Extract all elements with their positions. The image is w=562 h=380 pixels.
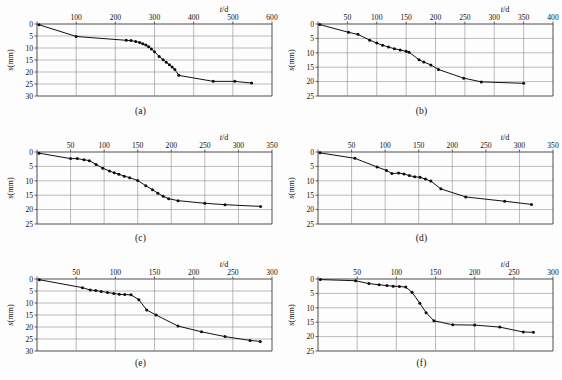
chart-panel-a: 100200300400500600051015202530t/ds(mm) (… (0, 0, 281, 128)
y-tick-label: 10 (306, 49, 314, 58)
data-point (532, 331, 535, 334)
data-point (81, 286, 84, 289)
y-tick-label: 10 (25, 177, 33, 186)
data-point (144, 184, 147, 187)
data-point (250, 82, 253, 85)
chart-b-plot: 501001502002503003504000510152025t/ds(mm… (287, 5, 559, 101)
data-point (503, 200, 506, 203)
data-point (177, 199, 180, 202)
data-point (145, 308, 148, 311)
data-point (158, 55, 161, 58)
x-tick-label: 400 (188, 13, 200, 22)
data-point (390, 172, 393, 175)
x-tick-label: 150 (132, 141, 144, 150)
data-point (393, 47, 396, 50)
data-point (418, 58, 421, 61)
y-axis-title: s(mm) (287, 304, 296, 326)
data-series-line (320, 280, 533, 333)
data-point (392, 285, 395, 288)
y-tick-label: 15 (25, 191, 33, 200)
caption-c: (c) (0, 233, 281, 243)
data-point (203, 202, 206, 205)
data-point (368, 39, 371, 42)
data-point (173, 68, 176, 71)
data-point (38, 278, 41, 281)
y-tick-label: 15 (306, 191, 314, 200)
data-point (128, 176, 131, 179)
data-point (130, 39, 133, 42)
y-tick-label: 5 (29, 32, 33, 41)
data-point (153, 50, 156, 53)
y-tick-label: 0 (310, 275, 314, 284)
data-point (83, 158, 86, 161)
data-point (89, 289, 92, 292)
data-point (123, 293, 126, 296)
x-tick-label: 200 (430, 13, 442, 22)
data-point (118, 293, 121, 296)
data-point (319, 278, 322, 281)
data-point (147, 45, 150, 48)
caption-f: (f) (281, 358, 562, 368)
y-tick-label: 25 (25, 335, 33, 344)
data-point (224, 335, 227, 338)
y-tick-label: 5 (310, 162, 314, 171)
data-point (212, 80, 215, 83)
x-tick-label: 200 (188, 268, 200, 277)
y-tick-label: 0 (29, 148, 33, 157)
data-point (171, 65, 174, 68)
x-tick-label: 300 (514, 141, 526, 150)
data-point (354, 279, 357, 282)
x-tick-label: 150 (413, 141, 425, 150)
data-point (437, 68, 440, 71)
x-tick-label: 250 (199, 141, 211, 150)
data-point (167, 197, 170, 200)
y-tick-label: 5 (29, 162, 33, 171)
data-point (150, 47, 153, 50)
data-point (156, 192, 159, 195)
data-point (125, 39, 128, 42)
x-tick-label: 500 (227, 13, 239, 22)
data-point (424, 178, 427, 181)
data-series-line (39, 25, 252, 83)
x-tick-label: 150 (400, 13, 412, 22)
x-tick-label: 100 (110, 268, 122, 277)
data-point (233, 80, 236, 83)
chart-e-plot: 50100150200250300051015202530t/ds(mm) (6, 260, 278, 356)
data-point (429, 180, 432, 183)
y-axis-title: s(mm) (287, 49, 296, 71)
y-axis-title: s(mm) (6, 177, 15, 199)
y-tick-label: 10 (306, 177, 314, 186)
caption-e: (e) (0, 358, 281, 368)
data-point (413, 175, 416, 178)
data-point (113, 171, 116, 174)
data-point (155, 314, 158, 317)
data-point (112, 292, 115, 295)
data-point (249, 339, 252, 342)
x-axis-title: t/d (220, 260, 229, 269)
chart-c-plot: 501001502002503003500510152025t/ds(mm) (6, 133, 278, 229)
chart-a-plot: 100200300400500600051015202530t/ds(mm) (6, 5, 278, 101)
x-tick-label: 50 (353, 268, 361, 277)
data-point (38, 152, 41, 155)
data-point (432, 319, 435, 322)
y-tick-label: 20 (306, 205, 314, 214)
y-tick-label: 15 (306, 318, 314, 327)
y-tick-label: 5 (310, 34, 314, 43)
y-tick-label: 25 (25, 220, 33, 229)
data-point (367, 282, 370, 285)
data-point (411, 291, 414, 294)
data-point (123, 175, 126, 178)
x-axis-title: t/d (220, 5, 229, 14)
y-tick-label: 5 (310, 289, 314, 298)
y-tick-label: 15 (25, 56, 33, 65)
x-tick-label: 250 (480, 141, 492, 150)
x-tick-label: 150 (149, 268, 161, 277)
data-point (376, 165, 379, 168)
x-axis-title: t/d (501, 133, 510, 142)
data-point (522, 82, 525, 85)
data-point (404, 286, 407, 289)
data-point (397, 172, 400, 175)
x-tick-label: 200 (469, 268, 481, 277)
caption-b: (b) (281, 106, 562, 116)
y-tick-label: 10 (25, 44, 33, 53)
